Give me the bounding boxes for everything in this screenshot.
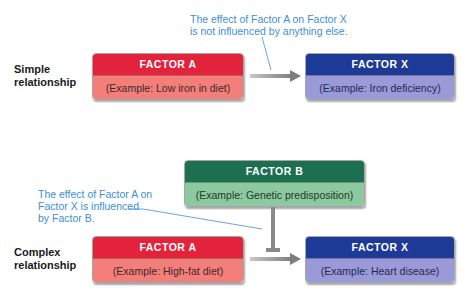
complex-arrow bbox=[250, 253, 301, 265]
simple-callout-leader bbox=[262, 37, 271, 70]
factor-b-modifier-line bbox=[266, 207, 280, 252]
complex-callout-leader bbox=[128, 209, 262, 229]
simple-arrow bbox=[250, 70, 301, 82]
connectors bbox=[0, 0, 469, 299]
